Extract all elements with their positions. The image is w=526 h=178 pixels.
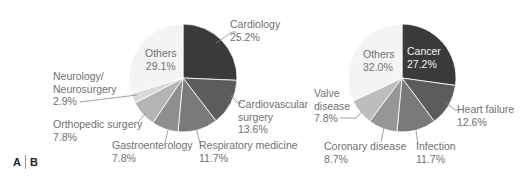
panel-label-a: A [13,156,21,168]
pie-chart-a [129,24,237,132]
label-heart-failure: Heart failure 12.6% [457,103,514,128]
panel-label-b: B [30,156,38,168]
label-neurology: Neurology/ Neurosurgery 2.9% [53,70,117,108]
label-others-a: Others 29.1% [145,47,177,72]
panel-letters: AB [13,155,38,169]
pie-chart-b [348,24,456,132]
label-coronary-disease: Coronary disease 8.7% [324,140,406,165]
label-infection: Infection 11.7% [416,140,456,165]
label-respiratory-medicine: Respiratory medicine 11.7% [199,139,298,164]
label-cancer: Cancer 27.2% [407,45,441,70]
label-valve-disease: Valve disease 7.8% [314,87,350,125]
panel-separator [25,155,26,169]
label-cardiovascular-surgery: Cardiovascular surgery 13.6% [238,98,308,136]
label-cardiology: Cardiology 25.2% [230,18,280,43]
label-orthopedic-surgery: Orthopedic surgery 7.8% [53,118,142,143]
label-others-b: Others 32.0% [363,48,395,73]
pie-slice [183,24,237,80]
